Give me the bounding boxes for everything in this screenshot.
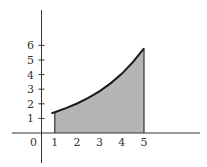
y-tick-label: 6 — [27, 39, 34, 52]
x-tick-label: 1 — [51, 136, 58, 149]
x-tick-label: 0 — [30, 136, 37, 149]
y-tick-label: 3 — [27, 83, 34, 96]
y-tick-label: 5 — [27, 54, 34, 67]
y-tick-label: 4 — [27, 69, 34, 82]
x-tick-label: 3 — [96, 136, 103, 149]
x-tick-label: 2 — [74, 136, 81, 149]
y-tick-label: 2 — [27, 98, 34, 111]
y-tick-label: 1 — [27, 112, 34, 125]
x-tick-label: 4 — [118, 136, 125, 149]
area-chart: 123456012345 — [0, 0, 207, 167]
x-tick-label: 5 — [141, 136, 148, 149]
